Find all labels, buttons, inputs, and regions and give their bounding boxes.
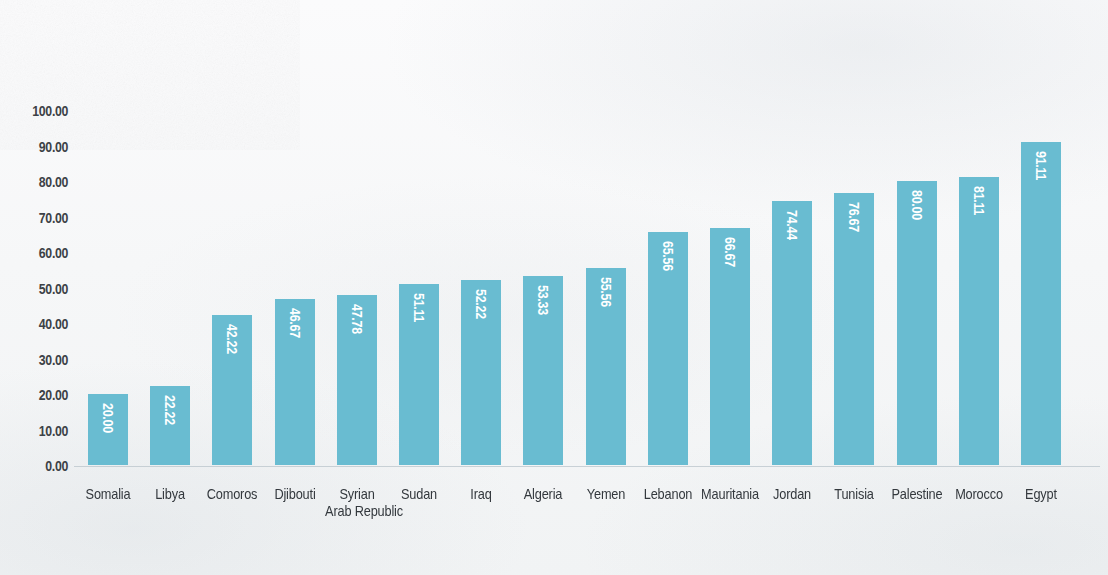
bar[interactable]: 55.56 [586,268,626,465]
bar-value-label: 42.22 [224,324,240,354]
bar-value-label: 55.56 [598,277,614,307]
x-axis-category-label: Egypt [986,486,1096,503]
y-axis-tick-label: 20.00 [17,386,68,403]
bar[interactable]: 51.11 [399,284,439,465]
y-axis-tick-label: 100.00 [17,102,68,119]
bar-value-label: 80.00 [909,190,925,220]
bar-value-label: 52.22 [473,289,489,319]
bar-value-label: 22.22 [162,395,178,425]
bar-value-label: 65.56 [660,241,676,271]
y-axis-tick-label: 0.00 [17,457,68,474]
x-axis-category-label-line: Arab Republic [322,503,406,520]
bar[interactable]: 74.44 [772,201,812,465]
bar-value-label: 53.33 [535,285,551,315]
axis-baseline [74,466,1100,467]
bar[interactable]: 53.33 [523,276,563,465]
bar-value-label: 51.11 [411,293,427,322]
x-axis-category-label-line: Egypt [993,486,1090,503]
bar[interactable]: 47.78 [337,295,377,465]
y-axis-tick-label: 50.00 [17,279,68,296]
bar[interactable]: 65.56 [648,232,688,465]
bar[interactable]: 91.11 [1021,142,1061,465]
bar-value-label: 20.00 [100,403,116,433]
bar-value-label: 81.11 [971,186,987,215]
bar[interactable]: 42.22 [212,315,252,465]
bar[interactable]: 76.67 [834,193,874,465]
bar-value-label: 74.44 [784,210,800,240]
bar-chart: 100.0090.0080.0070.0060.0050.0040.0030.0… [0,0,1108,575]
bar[interactable]: 52.22 [461,280,501,465]
bar[interactable]: 22.22 [150,386,190,465]
y-axis-tick-label: 30.00 [17,350,68,367]
bar-value-label: 46.67 [287,308,303,338]
y-axis-tick-label: 40.00 [17,315,68,332]
bar[interactable]: 81.11 [959,177,999,465]
bar[interactable]: 66.67 [710,228,750,465]
y-axis-tick-label: 90.00 [17,137,68,154]
y-axis-tick-label: 10.00 [17,421,68,438]
bar-value-label: 47.78 [349,304,365,334]
y-axis-tick-label: 70.00 [17,208,68,225]
y-axis-tick-label: 80.00 [17,173,68,190]
bar[interactable]: 46.67 [275,299,315,465]
bar-value-label: 91.11 [1033,151,1049,180]
bar-value-label: 76.67 [846,202,862,232]
bar[interactable]: 20.00 [88,394,128,465]
bar[interactable]: 80.00 [897,181,937,465]
bar-value-label: 66.67 [722,237,738,267]
y-axis-tick-label: 60.00 [17,244,68,261]
